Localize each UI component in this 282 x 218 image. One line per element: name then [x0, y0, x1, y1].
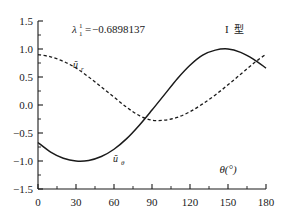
u-theta-base: ũ [113, 153, 118, 164]
u-r-subscript: r [81, 65, 84, 73]
y-tick-label: 0.0 [19, 99, 33, 111]
y-tick-label: −0.5 [13, 127, 33, 139]
x-tick-label: 120 [182, 196, 199, 208]
u-r-base: ũ [73, 59, 78, 70]
type-cjk-character: 型 [234, 23, 244, 35]
lambda-subscript: 1 [79, 30, 83, 38]
y-tick-label: 1.5 [19, 15, 33, 27]
x-axis-title: θ(°) [219, 163, 236, 176]
y-tick-label: −1.5 [13, 183, 33, 195]
u-theta-subscript: θ [121, 159, 125, 167]
chart-canvas: 1.5 1.0 0.5 0.0 −0.5 −1.0 −1.5 0 30 60 9… [0, 0, 282, 218]
lambda-superscript: 1 [79, 22, 83, 30]
chart-figure: 1.5 1.0 0.5 0.0 −0.5 −1.0 −1.5 0 30 60 9… [0, 0, 282, 218]
curve-label-u-r: ũ r [73, 59, 84, 73]
y-axis-tick-labels: 1.5 1.0 0.5 0.0 −0.5 −1.0 −1.5 [13, 15, 33, 195]
x-tick-label: 90 [147, 196, 159, 208]
y-tick-label: 0.5 [19, 71, 33, 83]
lambda-symbol: λ [71, 23, 77, 35]
x-axis-major-ticks [38, 184, 266, 189]
curve-label-u-theta: ũ θ [113, 153, 125, 167]
x-tick-label: 180 [258, 196, 275, 208]
y-tick-label: 1.0 [19, 43, 33, 55]
y-tick-label: −1.0 [13, 155, 33, 167]
type-roman-numeral: I [225, 23, 229, 35]
x-tick-label: 150 [220, 196, 237, 208]
x-axis-tick-labels: 0 30 60 90 120 150 180 [35, 196, 275, 208]
type-label-annotation: I 型 [225, 23, 244, 35]
x-tick-label: 0 [35, 196, 41, 208]
eigenvalue-annotation: λ 1 1 = −0.6898137 [71, 22, 145, 38]
y-axis-major-ticks [38, 21, 43, 189]
x-tick-label: 30 [71, 196, 83, 208]
eigenvalue-value: −0.6898137 [92, 23, 145, 35]
equals-sign: = [85, 23, 91, 35]
x-tick-label: 60 [109, 196, 121, 208]
